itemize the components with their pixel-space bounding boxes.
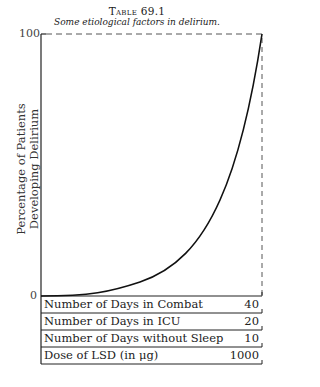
row-value: 40: [244, 296, 259, 313]
row-label: Number of Days in ICU: [44, 313, 180, 330]
row-value: 10: [244, 330, 259, 347]
table-row: Number of Days in ICU 20: [42, 313, 261, 330]
row-value: 20: [244, 313, 259, 330]
row-label: Dose of LSD (in μg): [44, 347, 158, 364]
row-label: Number of Days in Combat: [44, 296, 203, 313]
table-row: Dose of LSD (in μg) 1000: [42, 347, 261, 364]
row-label: Number of Days without Sleep: [44, 330, 223, 347]
table-row: Number of Days in Combat 40: [42, 296, 261, 313]
delirium-curve: [41, 34, 262, 296]
table-row: Number of Days without Sleep 10: [42, 330, 261, 347]
row-value: 1000: [230, 347, 259, 364]
